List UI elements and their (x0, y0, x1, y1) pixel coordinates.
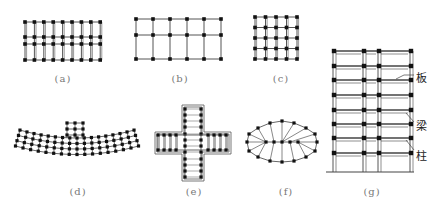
panel-d-curved-grid (14, 121, 140, 156)
annotation-column: 柱 (416, 147, 427, 163)
structure-diagram (0, 0, 437, 213)
panel-c-square-grid (253, 15, 299, 61)
label-g: (g) (363, 186, 380, 197)
panel-a-grid-plan (23, 20, 102, 62)
panel-b-frame-plan (134, 17, 223, 61)
label-a: (a) (55, 73, 72, 84)
annotation-beam: 梁 (416, 117, 427, 133)
panel-f-elliptical-plan (245, 119, 318, 163)
label-e: (e) (186, 186, 203, 197)
label-f: (f) (279, 186, 294, 197)
label-c: (c) (273, 73, 289, 84)
label-b: (b) (171, 73, 188, 84)
panel-g-building-elevation (326, 49, 414, 172)
panel-e-cross-plan (155, 105, 231, 181)
label-d: (d) (69, 186, 86, 197)
annotation-slab: 板 (416, 69, 427, 85)
